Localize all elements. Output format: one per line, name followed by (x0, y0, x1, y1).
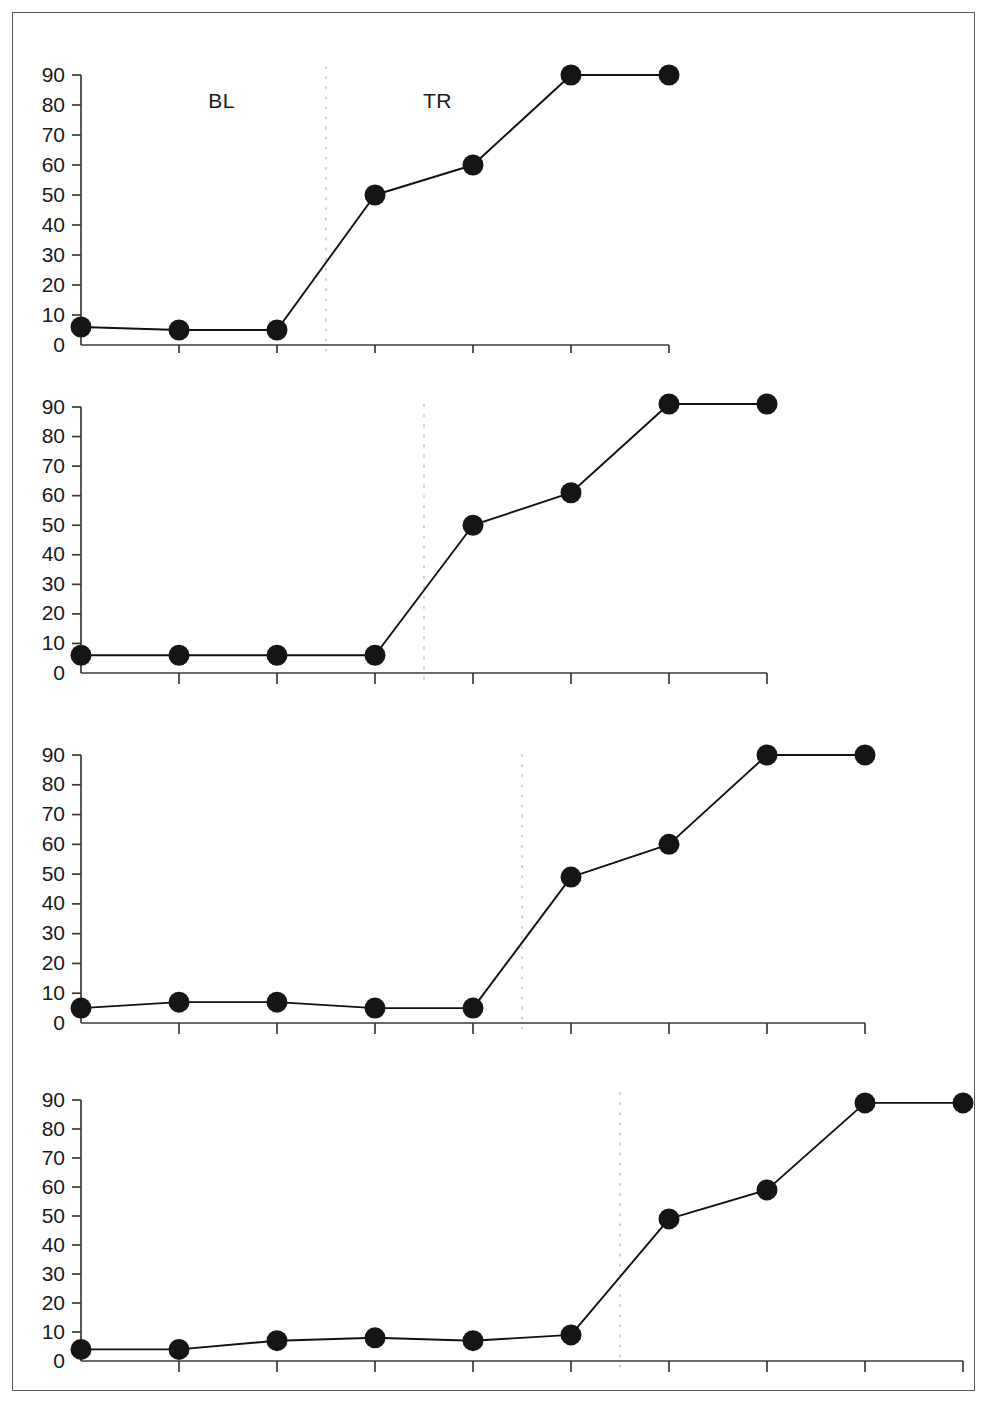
y-tick-label-20: 20 (42, 601, 65, 624)
data-point (953, 1092, 974, 1113)
data-point (463, 1330, 484, 1351)
chart-panel-3: 0102030405060708090 (13, 725, 976, 1043)
y-tick-label-90: 90 (42, 743, 65, 766)
y-tick-label-60: 60 (42, 483, 65, 506)
y-tick-label-0: 0 (53, 1349, 65, 1372)
data-point (463, 515, 484, 536)
data-point (267, 1330, 288, 1351)
y-tick-label-40: 40 (42, 542, 65, 565)
data-point (659, 65, 680, 86)
data-point (659, 1208, 680, 1229)
plot-area-4: 0102030405060708090 (13, 1071, 976, 1391)
y-tick-label-20: 20 (42, 1291, 65, 1314)
y-tick-label-30: 30 (42, 921, 65, 944)
y-tick-label-0: 0 (53, 661, 65, 684)
data-point (463, 155, 484, 176)
data-point (561, 867, 582, 888)
figure-frame: 0102030405060708090BLTR01020304050607080… (12, 12, 975, 1391)
y-tick-label-50: 50 (42, 513, 65, 536)
y-tick-label-50: 50 (42, 1204, 65, 1227)
y-tick-label-40: 40 (42, 213, 65, 236)
data-point (855, 1092, 876, 1113)
data-point (561, 1324, 582, 1345)
data-point (267, 645, 288, 666)
data-point (561, 482, 582, 503)
phase-label-baseline: BL (208, 89, 235, 112)
data-point (267, 992, 288, 1013)
data-point (71, 317, 92, 338)
data-point (169, 645, 190, 666)
phase-label-treatment: TR (423, 89, 452, 112)
y-tick-label-60: 60 (42, 153, 65, 176)
data-point (365, 185, 386, 206)
data-point (463, 998, 484, 1019)
y-tick-label-80: 80 (42, 1117, 65, 1140)
data-point (757, 1179, 778, 1200)
data-point (659, 394, 680, 415)
y-tick-label-40: 40 (42, 1233, 65, 1256)
data-point (169, 320, 190, 341)
y-tick-label-20: 20 (42, 273, 65, 296)
chart-panel-2: 0102030405060708090 (13, 375, 976, 693)
y-tick-label-10: 10 (42, 1320, 65, 1343)
data-point (561, 65, 582, 86)
data-point (71, 998, 92, 1019)
y-tick-label-40: 40 (42, 891, 65, 914)
y-tick-label-0: 0 (53, 333, 65, 353)
y-tick-label-50: 50 (42, 862, 65, 885)
y-tick-label-30: 30 (42, 1262, 65, 1285)
y-tick-label-50: 50 (42, 183, 65, 206)
data-point (169, 1339, 190, 1360)
y-tick-label-90: 90 (42, 1088, 65, 1111)
y-tick-label-0: 0 (53, 1011, 65, 1034)
data-point (757, 745, 778, 766)
data-point (855, 745, 876, 766)
y-tick-label-10: 10 (42, 303, 65, 326)
data-point (757, 394, 778, 415)
y-tick-label-30: 30 (42, 243, 65, 266)
data-series-line-4 (81, 1103, 963, 1350)
y-tick-label-80: 80 (42, 424, 65, 447)
y-tick-label-30: 30 (42, 572, 65, 595)
data-point (71, 1339, 92, 1360)
y-tick-label-10: 10 (42, 631, 65, 654)
y-tick-label-80: 80 (42, 93, 65, 116)
y-tick-label-20: 20 (42, 951, 65, 974)
y-tick-label-70: 70 (42, 123, 65, 146)
y-tick-label-90: 90 (42, 63, 65, 86)
data-point (169, 992, 190, 1013)
data-series-line-3 (81, 755, 865, 1008)
plot-area-2: 0102030405060708090 (13, 375, 976, 693)
y-tick-label-60: 60 (42, 832, 65, 855)
data-point (71, 645, 92, 666)
y-tick-label-70: 70 (42, 1146, 65, 1169)
data-point (365, 998, 386, 1019)
data-point (365, 645, 386, 666)
y-tick-label-90: 90 (42, 395, 65, 418)
data-point (659, 834, 680, 855)
y-tick-label-10: 10 (42, 981, 65, 1004)
y-tick-label-70: 70 (42, 454, 65, 477)
plot-area-1: 0102030405060708090BLTR (13, 35, 976, 353)
y-tick-label-60: 60 (42, 1175, 65, 1198)
data-point (365, 1327, 386, 1348)
plot-area-3: 0102030405060708090 (13, 725, 976, 1043)
data-point (267, 320, 288, 341)
y-tick-label-80: 80 (42, 772, 65, 795)
y-tick-label-70: 70 (42, 802, 65, 825)
chart-panel-4: 0102030405060708090 (13, 1071, 976, 1391)
chart-panel-1: 0102030405060708090BLTR (13, 35, 976, 353)
